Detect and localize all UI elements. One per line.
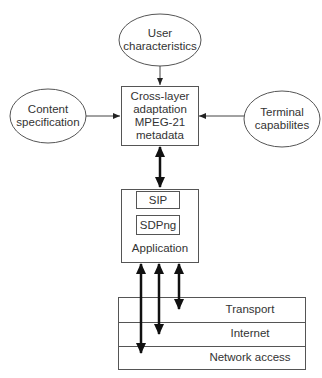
content-specification-label: Content specification [8, 103, 88, 129]
layer-transport-label: Transport [200, 303, 300, 316]
sdpng-label: SDPng [136, 219, 180, 232]
layer-internet-label: Internet [200, 327, 300, 340]
terminal-capabilities-label: Terminal capabilites [244, 106, 320, 132]
diagram-canvas [0, 0, 322, 378]
sip-label: SIP [136, 194, 180, 207]
crosslayer-label: Cross-layer adaptation MPEG-21 metadata [121, 90, 199, 142]
user-characteristics-label: User characteristics [119, 27, 201, 53]
layer-network-access-label: Network access [200, 351, 300, 364]
application-label: Application [121, 242, 199, 255]
